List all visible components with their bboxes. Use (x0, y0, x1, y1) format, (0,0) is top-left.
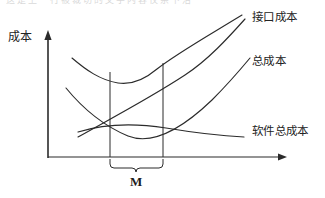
optimum-band (110, 63, 163, 157)
total-cost-label: 总成本 (252, 56, 286, 68)
interface-cost-label: 接口成本 (252, 12, 297, 24)
diagram-canvas (0, 0, 325, 198)
cost-diagram-figure: 这是上一行被裁切的文字内容仅余下沿 成本 (0, 0, 325, 198)
y-axis (44, 30, 51, 158)
interface-cost-curve (78, 19, 245, 137)
software-total-cost-label: 软件总成本 (252, 126, 309, 138)
y-axis-label: 成本 (8, 31, 33, 43)
band-marker-label: M (130, 175, 142, 188)
x-axis (48, 154, 287, 161)
band-brace (110, 159, 163, 172)
